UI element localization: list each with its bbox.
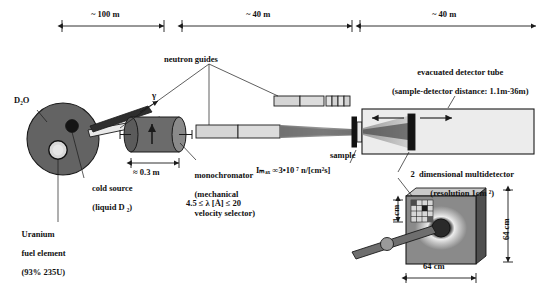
sample-label: sample [330,151,356,161]
pixel-size-label: 1 cm [392,205,402,222]
wavelength-range-label: 4.5 ≤ λ [Å] ≤ 20 [186,199,241,209]
dimension-label-40m-guides: ~ 40 m [246,9,270,19]
cold-source-label: cold source (liquid D ₂) [62,174,154,222]
detector-height-label: 64 cm [502,219,512,240]
beam-cone-to-sample [280,125,352,138]
cold-source-blob [66,120,79,133]
uranium-fuel-element-label: Uranium fuel element (93% 235U) [13,220,66,287]
velocity-selector [120,117,192,168]
gamma-ray-label: γ [152,91,156,101]
monochromator-label: monochromator (mechanical velocity selec… [186,161,255,228]
movable-detector-panel [408,114,415,150]
reactor-moderator-tank [27,103,99,175]
dimension-label-100m: ~ 100 m [91,9,120,19]
dimension-label-40m-tube: ~ 40 m [432,9,456,19]
detector-width-label: 64 cm [423,262,444,272]
neutron-guides-label: neutron guides [164,55,218,65]
figure-canvas: ~ 100 m ~ 40 m ~ 40 m ≈ 0.3 m D₂O γ cold… [0,0,544,291]
instrument-schematic-svg [0,0,544,291]
heavy-water-label: D₂O [14,96,29,106]
neutron-flux-label: Iₘₐₓ ∞3•10 ⁷ n/[cm²s] [256,166,330,176]
neutron-guide-upper-run [274,96,350,106]
neutron-guide-lower-run [196,125,280,138]
dimension-rules [62,20,536,32]
multidetector-label: 2 dimensional multidetector (resolution … [376,160,540,208]
evacuated-detector-tube-label: evacuated detector tube (sample-detector… [368,58,544,106]
